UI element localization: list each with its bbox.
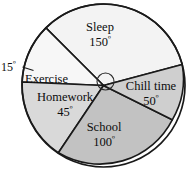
pie-chart-svg (0, 0, 191, 181)
pie-chart: Sleep 150º Chill time 50º School 100º Ho… (0, 0, 191, 181)
